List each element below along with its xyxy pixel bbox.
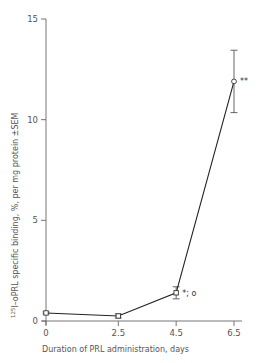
y-tick-label: 0 xyxy=(33,316,38,326)
x-tick-label: 2.5 xyxy=(112,328,126,338)
data-point xyxy=(116,314,120,318)
y-axis-label-main: I–oPRL specific binding, %, per mg prote… xyxy=(11,112,20,307)
x-axis-label: Duration of PRL administration, days xyxy=(42,345,189,354)
y-axis-label-superscript: 125 xyxy=(10,307,16,318)
error-bars xyxy=(43,50,238,318)
y-tick-label: 5 xyxy=(33,215,38,225)
x-tick-label: 6.5 xyxy=(227,328,241,338)
y-axis-label: 125I–oPRL specific binding, %, per mg pr… xyxy=(10,112,20,318)
chart: 051015 02.54.56.5 *; o** Duration of PRL… xyxy=(0,0,258,363)
y-tick-label: 15 xyxy=(27,14,38,24)
data-point xyxy=(232,79,237,84)
y-tick-label: 10 xyxy=(27,115,38,125)
x-ticks: 02.54.56.5 xyxy=(43,321,240,338)
x-tick-label: 4.5 xyxy=(169,328,183,338)
data-point xyxy=(44,311,48,315)
x-tick-label: 0 xyxy=(43,328,48,338)
axes xyxy=(42,19,242,325)
annotations: *; o** xyxy=(182,77,248,297)
y-ticks: 051015 xyxy=(27,14,46,326)
data-point xyxy=(174,291,178,295)
series-line xyxy=(46,81,234,316)
significance-annotation: ** xyxy=(240,77,248,86)
significance-annotation: *; o xyxy=(182,289,196,298)
data-markers xyxy=(44,79,237,318)
